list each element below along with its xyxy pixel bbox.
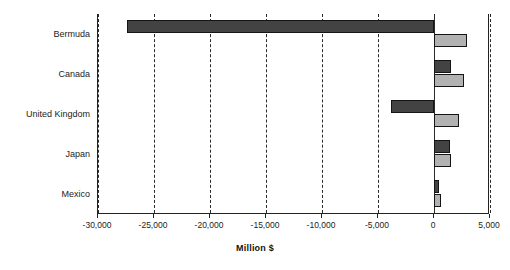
bar-mexico-series-light (434, 194, 441, 207)
bar-canada-series-light (434, 74, 464, 87)
tick-0 (433, 214, 434, 218)
value-axis: -30,000-25,000-20,000-15,000-10,000-5,00… (97, 214, 489, 215)
gridline--25000 (154, 14, 155, 213)
bar-bermuda-series-light (434, 34, 467, 47)
tick--10000 (321, 214, 322, 218)
tick-label--5000: -5,000 (365, 220, 389, 230)
gridline-5000 (490, 14, 491, 213)
tick-label--15000: -15,000 (251, 220, 280, 230)
tick-label--25000: -25,000 (139, 220, 168, 230)
bar-japan-series-light (434, 154, 451, 167)
category-label-united-kingdom: United Kingdom (26, 109, 90, 119)
tick--30000 (97, 214, 98, 218)
category-axis-labels: BermudaCanadaUnited KingdomJapanMexico (0, 14, 94, 214)
tick--25000 (153, 214, 154, 218)
gridline--10000 (322, 14, 323, 213)
tick-label--30000: -30,000 (83, 220, 112, 230)
bar-chart: BermudaCanadaUnited KingdomJapanMexico -… (0, 0, 510, 270)
tick-5000 (489, 214, 490, 218)
axis-title: Million $ (0, 243, 510, 253)
category-label-canada: Canada (58, 69, 90, 79)
bar-bermuda-series-dark (127, 20, 434, 33)
tick-label--10000: -10,000 (307, 220, 336, 230)
tick--15000 (265, 214, 266, 218)
plot-area (97, 14, 489, 214)
gridline--15000 (266, 14, 267, 213)
tick-label--20000: -20,000 (195, 220, 224, 230)
bar-mexico-series-dark (434, 180, 439, 193)
tick--5000 (377, 214, 378, 218)
gridline--20000 (210, 14, 211, 213)
gridline--5000 (378, 14, 379, 213)
bar-canada-series-dark (434, 60, 451, 73)
tick-label-5000: 5,000 (478, 220, 499, 230)
category-label-mexico: Mexico (61, 189, 90, 199)
bar-united-kingdom-series-dark (391, 100, 434, 113)
tick--20000 (209, 214, 210, 218)
gridline--30000 (98, 14, 99, 213)
bar-japan-series-dark (434, 140, 450, 153)
tick-label-0: 0 (431, 220, 436, 230)
bar-united-kingdom-series-light (434, 114, 459, 127)
category-label-bermuda: Bermuda (53, 29, 90, 39)
category-label-japan: Japan (65, 149, 90, 159)
